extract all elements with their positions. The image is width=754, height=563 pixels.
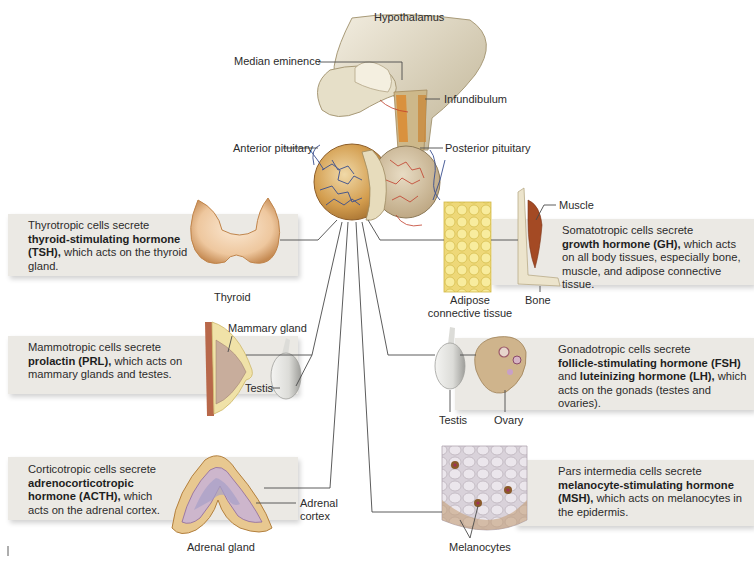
adrenal-gland-illustration — [172, 456, 272, 534]
label-anterior-pituitary: Anterior pituitary — [233, 142, 313, 155]
epidermis-illustration — [442, 446, 527, 530]
label-thyroid: Thyroid — [214, 291, 251, 304]
panel-gh-text: Somatotropic cells secrete growth hormon… — [562, 224, 747, 292]
label-muscle: Muscle — [559, 199, 594, 212]
label-bone: Bone — [525, 294, 551, 307]
testis-left-illustration — [271, 338, 301, 399]
thyroid-illustration — [191, 198, 280, 264]
panel-msh-text: Pars intermedia cells secrete melanocyte… — [558, 465, 748, 519]
testis-right-illustration — [435, 327, 465, 389]
panel-fsh-lh-text: Gonadotropic cells secrete follicle-stim… — [558, 343, 748, 411]
label-adrenal-cortex: Adrenal cortex — [300, 497, 338, 523]
label-ovary: Ovary — [494, 414, 523, 427]
label-adrenal-gland: Adrenal gland — [187, 541, 255, 554]
label-hypothalamus: Hypothalamus — [374, 11, 444, 24]
panel-tsh-text: Thyrotropic cells secrete thyroid-stimul… — [28, 219, 188, 273]
label-mammary-gland: Mammary gland — [228, 322, 307, 335]
mammary-gland-illustration — [205, 322, 252, 416]
label-testis-right: Testis — [439, 414, 467, 427]
label-testis-left: Testis — [245, 382, 273, 395]
label-infundibulum: Infundibulum — [444, 93, 507, 106]
label-melanocytes: Melanocytes — [449, 541, 511, 554]
adipose-tissue-illustration — [444, 202, 491, 292]
label-adipose: Adipose connective tissue — [425, 294, 515, 320]
label-median-eminence: Median eminence — [234, 55, 321, 68]
panel-prl-text: Mammotropic cells secrete prolactin (PRL… — [28, 341, 183, 382]
label-posterior-pituitary: Posterior pituitary — [445, 142, 531, 155]
ovary-illustration — [475, 337, 526, 393]
bone-muscle-illustration — [518, 188, 560, 286]
panel-acth-text: Corticotropic cells secrete adrenocortic… — [28, 463, 168, 517]
hypothalamus-illustration — [318, 14, 487, 150]
